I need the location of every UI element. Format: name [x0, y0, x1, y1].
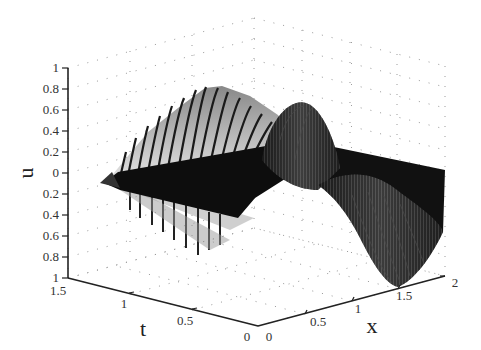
t-tick-labels: 1.5 1 0.5 0: [50, 283, 250, 344]
svg-text:1.5: 1.5: [396, 288, 412, 303]
svg-text:0.2: 0.2: [43, 144, 59, 159]
svg-text:0.6: 0.6: [43, 102, 60, 117]
svg-text:0.4: 0.4: [43, 207, 60, 222]
u-tick-labels: 1 0.8 0.6 0.4 0.2 0 0.2 0.4 0.6 0.8 1: [43, 60, 60, 285]
surface-plot: 1 0.8 0.6 0.4 0.2 0 0.2 0.4 0.6 0.8 1 1.…: [0, 0, 481, 350]
svg-text:0.4: 0.4: [43, 123, 60, 138]
svg-text:1: 1: [53, 60, 60, 75]
wave-surface: [262, 102, 445, 287]
svg-text:0.5: 0.5: [310, 314, 326, 329]
x-tick-labels: 0 0.5 1 1.5 2: [266, 275, 459, 344]
svg-text:1: 1: [355, 301, 362, 316]
t-axis-label: t: [140, 316, 146, 341]
svg-text:2: 2: [452, 275, 459, 290]
t-axis-line: [68, 278, 258, 326]
svg-text:1: 1: [121, 296, 128, 311]
u-axis-label: u: [13, 168, 38, 179]
svg-text:0.2: 0.2: [43, 186, 59, 201]
svg-text:1.5: 1.5: [50, 283, 66, 298]
x-axis-label: x: [367, 313, 378, 338]
svg-text:0.6: 0.6: [43, 228, 60, 243]
svg-text:0.5: 0.5: [177, 313, 193, 328]
svg-text:0: 0: [266, 329, 273, 344]
x-axis-line: [258, 276, 445, 326]
svg-text:0.8: 0.8: [43, 249, 59, 264]
svg-text:0: 0: [53, 165, 60, 180]
svg-text:0.8: 0.8: [43, 81, 59, 96]
svg-text:0: 0: [244, 329, 251, 344]
